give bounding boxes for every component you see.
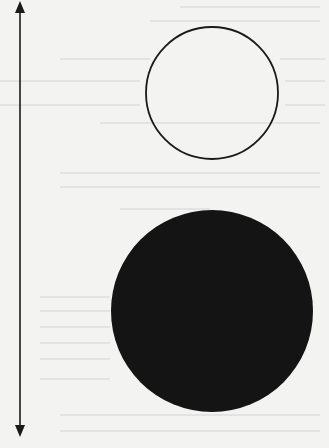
arrow-up-head-icon — [15, 1, 25, 13]
diagram-canvas — [0, 0, 329, 448]
small-outlined-circle — [146, 27, 278, 159]
arrow-down-head-icon — [15, 425, 25, 437]
double-headed-arrow — [15, 1, 25, 437]
large-filled-circle — [111, 210, 313, 412]
